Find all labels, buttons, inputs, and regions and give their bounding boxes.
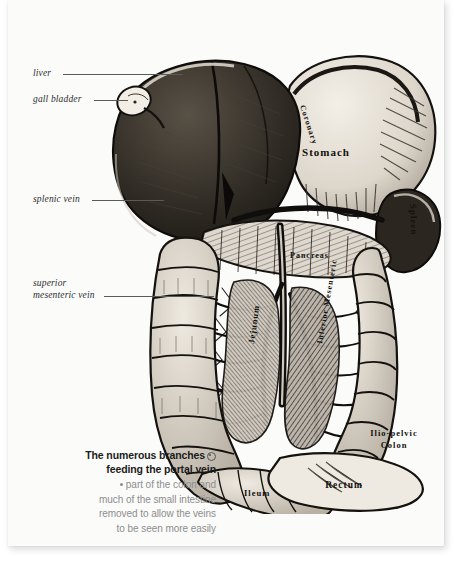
callout-superior-mesenteric-vein-line2: mesenteric vein: [33, 290, 95, 302]
caption-headline-line2: feeding the portal vein: [106, 463, 216, 475]
circled-dot-symbol: [207, 452, 216, 461]
engraved-label-ilio-pelvic-colon-1: Ilio-pelvic: [370, 428, 417, 438]
caption-headline: The numerous branches feeding the portal…: [26, 448, 216, 476]
rectum-organ: Rectum: [269, 453, 423, 511]
caption-block: The numerous branches feeding the portal…: [26, 448, 216, 536]
anatomical-illustration: Stomach Coronary: [94, 44, 452, 514]
caption-body-line4: to be seen more easily: [116, 523, 216, 534]
caption-body: part of the colon and much of the small …: [26, 478, 216, 536]
caption-headline-line1: The numerous branches: [85, 449, 205, 461]
leader-line-superior-mesenteric-vein: [104, 296, 214, 297]
engraved-label-rectum: Rectum: [325, 480, 363, 490]
engraved-label-pancreas: Pancreas: [290, 251, 329, 260]
caption-body-line3: removed to allow the veins: [99, 508, 216, 519]
engraved-label-ilio-pelvic-colon-2: Colon: [381, 440, 408, 450]
engraved-label-spleen: Spleen: [408, 204, 419, 236]
caption-body-line1: part of the colon and: [126, 479, 216, 490]
leader-line-gall-bladder: [94, 100, 128, 101]
engraved-label-stomach: Stomach: [302, 146, 350, 158]
callout-liver: liver: [33, 68, 51, 80]
caption-body-line2: much of the small intestine: [99, 494, 216, 505]
callout-gall-bladder: gall bladder: [33, 94, 82, 106]
leader-line-liver: [63, 74, 183, 75]
bullet-dot: [120, 483, 123, 486]
page-sheet: Stomach Coronary: [8, 0, 444, 546]
callout-splenic-vein: splenic vein: [33, 194, 80, 206]
callout-superior-mesenteric-vein-line1: superior: [33, 278, 66, 290]
engraved-label-ileum: Ileum: [244, 488, 270, 498]
leader-line-splenic-vein: [92, 200, 164, 201]
